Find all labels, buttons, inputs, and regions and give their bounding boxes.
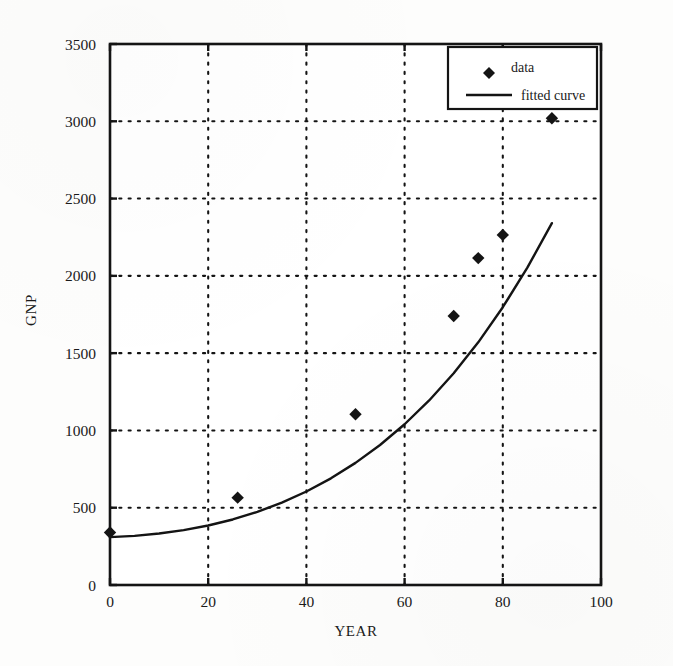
x-tick-label: 0 (106, 593, 114, 610)
y-tick-label: 2500 (65, 190, 96, 207)
chart-legend: data fitted curve (448, 47, 597, 109)
y-tick-label: 500 (73, 499, 97, 516)
x-tick-label: 60 (397, 593, 413, 610)
figure-canvas: 0500100015002000250030003500 02040608010… (0, 0, 673, 666)
y-tick-label: 3000 (65, 113, 96, 130)
y-axis-tick-labels: 0500100015002000250030003500 (65, 36, 96, 594)
x-tick-label: 40 (299, 593, 315, 610)
y-tick-label: 0 (88, 577, 96, 594)
gnp-vs-year-chart: 0500100015002000250030003500 02040608010… (0, 0, 673, 666)
y-tick-label: 1500 (65, 345, 96, 362)
x-tick-label: 20 (200, 593, 216, 610)
x-tick-label: 100 (589, 593, 613, 610)
x-axis-tick-labels: 020406080100 (106, 593, 613, 610)
y-tick-label: 1000 (65, 422, 96, 439)
x-tick-label: 80 (495, 593, 511, 610)
y-tick-label: 3500 (65, 36, 96, 53)
y-tick-label: 2000 (65, 267, 96, 284)
x-axis-title: YEAR (334, 623, 377, 639)
legend-label-data: data (511, 60, 535, 75)
legend-label-fitted-curve: fitted curve (521, 88, 585, 103)
plot-area-background (110, 44, 601, 585)
y-axis-title: GNP (23, 294, 39, 326)
